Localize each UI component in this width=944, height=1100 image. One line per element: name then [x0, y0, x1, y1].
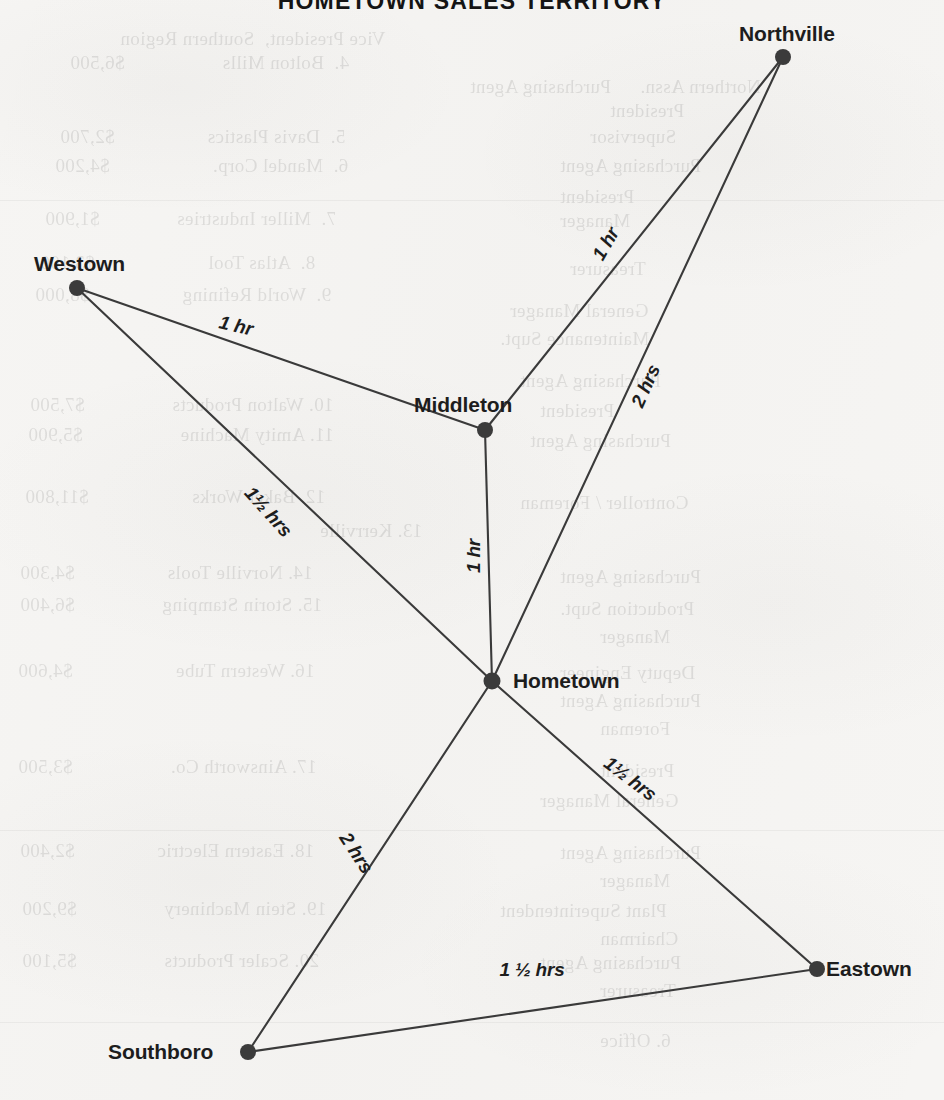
city-label-eastown: Eastown — [826, 957, 912, 981]
node-dot-hometown — [484, 673, 501, 690]
route-southboro-eastown — [248, 969, 817, 1052]
node-dot-eastown — [809, 961, 825, 977]
city-label-middleton: Middleton — [414, 393, 512, 417]
city-label-westown: Westown — [34, 252, 125, 276]
scanned-page: Vice President, Southern Region4. Bolton… — [0, 0, 944, 1100]
route-hometown-northville — [492, 57, 783, 681]
city-label-northville: Northville — [739, 22, 835, 46]
route-middleton-hometown — [485, 430, 492, 681]
diagram-edges — [77, 57, 817, 1052]
city-label-southboro: Southboro — [108, 1040, 213, 1064]
node-dot-middleton — [477, 422, 493, 438]
city-label-hometown: Hometown — [513, 669, 620, 693]
travel-time-middleton-hometown: 1 hr — [463, 539, 485, 573]
travel-time-southboro-eastown: 1 ½ hrs — [499, 959, 564, 981]
node-dot-northville — [775, 49, 791, 65]
diagram-nodes — [69, 49, 825, 1060]
node-dot-southboro — [240, 1044, 256, 1060]
route-westown-hometown — [77, 288, 492, 681]
node-dot-westown — [69, 280, 85, 296]
route-hometown-eastown — [492, 681, 817, 969]
